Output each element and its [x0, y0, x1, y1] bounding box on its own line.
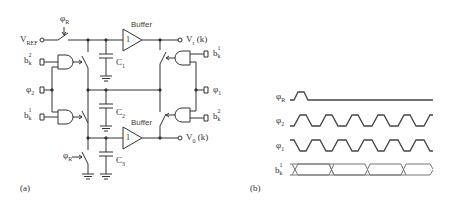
- label-b-k2-left: b2k: [24, 56, 35, 66]
- phi-r-bottom-switch: [82, 152, 88, 164]
- label-b-k1-left: b1k: [24, 111, 35, 121]
- right-bottom-switch: [160, 114, 166, 126]
- buffer-bottom-gain: 1: [126, 134, 130, 142]
- label-phi-2: φ2: [26, 85, 34, 94]
- label-vref: VREF: [20, 35, 38, 44]
- waveform-phi-1: [290, 140, 433, 151]
- label-wave-phi-2: φ2: [276, 116, 284, 125]
- buffer-top-gain: 1: [126, 36, 130, 44]
- vref-terminal: [40, 38, 44, 42]
- circuit-schematic: [0, 0, 450, 200]
- label-phi-r-bottom: φR: [63, 151, 72, 160]
- timing-diagram: [290, 92, 433, 151]
- label-c3: C3: [116, 156, 125, 165]
- circuit-figure: VREF φR b2k φ2 b1k φR C1 C2 C3 Buffer 1 …: [0, 0, 450, 200]
- label-buffer-bottom: Buffer: [131, 119, 152, 127]
- and-gate-right-top: [175, 51, 190, 65]
- label-b-k2-right: b2k: [213, 112, 224, 122]
- label-b-k1-right: b1k: [213, 49, 224, 59]
- waveform-phi-r: [290, 92, 433, 100]
- waveform-phi-2: [290, 115, 433, 126]
- waveform-b-k1: [290, 164, 433, 175]
- label-buffer-top: Buffer: [131, 21, 152, 29]
- label-v0-output: V0 (k): [186, 133, 208, 142]
- vr-output-terminal: [178, 38, 182, 42]
- label-phi-r-top: φR: [60, 14, 69, 23]
- label-wave-phi-1: φ1: [276, 141, 284, 150]
- label-c1: C1: [116, 58, 125, 67]
- caption-b: (b): [250, 184, 261, 193]
- and-gate-left-top: [58, 55, 73, 69]
- v0-output-terminal: [178, 136, 182, 140]
- label-phi-1: φ1: [213, 85, 221, 94]
- and-gate-left-bottom: [58, 110, 73, 124]
- label-c2: C2: [116, 108, 125, 117]
- label-wave-phi-r: φR: [276, 92, 285, 101]
- caption-a: (a): [20, 184, 30, 193]
- label-vr-output: Vr (k): [186, 35, 207, 44]
- label-wave-b-k1: b1k: [275, 166, 286, 176]
- and-gate-right-bottom: [175, 108, 190, 122]
